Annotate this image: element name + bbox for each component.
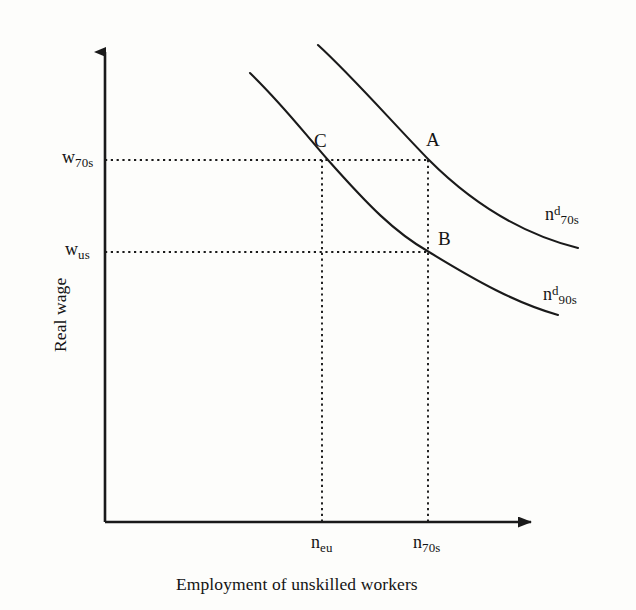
x-tick-base-n70s: n	[413, 532, 422, 552]
economics-diagram-figure: Real wage Employment of unskilled worker…	[0, 0, 636, 610]
y-tick-base-wus: w	[65, 239, 78, 259]
curve-label-sub-nd90s: 90s	[558, 292, 577, 307]
curve-label-base-nd90s: n	[543, 284, 552, 304]
point-label-a: A	[426, 130, 440, 149]
x-tick-base-neu: n	[311, 532, 320, 552]
y-tick-label-wus: wus	[65, 240, 90, 262]
x-axis-title: Employment of unskilled workers	[176, 576, 418, 594]
x-tick-sub-neu: eu	[320, 540, 333, 555]
y-tick-label-w70s: w70s	[62, 148, 94, 170]
y-axis-title: Real wage	[52, 278, 70, 352]
demand-curve-nd70s	[318, 45, 578, 248]
curve-label-sub-nd70s: 70s	[560, 212, 579, 227]
curve-label-nd70s: nd70s	[545, 205, 579, 227]
point-label-b: B	[438, 229, 451, 248]
x-tick-label-neu: neu	[311, 533, 333, 555]
y-tick-sub-wus: us	[78, 247, 90, 262]
x-tick-sub-n70s: 70s	[422, 540, 441, 555]
curve-label-nd90s: nd90s	[543, 285, 577, 307]
y-tick-base-w70s: w	[62, 147, 75, 167]
y-tick-sub-w70s: 70s	[75, 155, 94, 170]
point-label-c: C	[314, 131, 327, 150]
diagram-canvas	[0, 0, 636, 610]
curve-label-base-nd70s: n	[545, 204, 554, 224]
demand-curve-nd90s	[250, 73, 558, 315]
x-tick-label-n70s: n70s	[413, 533, 441, 555]
